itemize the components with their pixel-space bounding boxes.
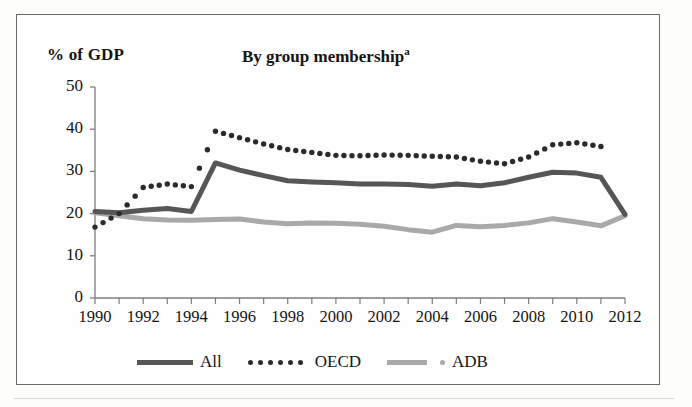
legend-label-adb: ADB [452,352,488,372]
plot-svg [95,87,625,298]
y-axis-tick-label: 0 [43,287,83,307]
series-line-adb [95,213,625,232]
x-axis-tick-label: 2012 [595,307,655,327]
chart-title: By group membershipa [242,45,410,67]
chart-title-text: By group membership [242,47,404,66]
legend-swatch-light-dot-icon [440,360,445,365]
y-axis-tick-label: 30 [43,160,83,180]
y-axis-unit-label: % of GDP [47,45,124,65]
plot-area: 01020304050 1990199219941996199820002002… [95,87,625,298]
series-line-all [95,163,625,214]
legend-swatch-dotted-line-icon [248,359,308,365]
x-axis-tick-marks [95,298,625,304]
y-axis-tick-label: 10 [43,245,83,265]
chart-title-footnote-marker: a [404,45,410,57]
legend-item-oecd[interactable]: OECD [248,352,361,372]
legend-label-all: All [200,352,222,372]
legend-label-oecd: OECD [315,352,361,372]
page-bottom-rule [14,398,674,399]
figure-page: % of GDP By group membershipa 0102030405… [0,0,692,407]
legend-item-all[interactable]: All [137,352,222,372]
chart-panel: % of GDP By group membershipa 0102030405… [16,14,660,385]
y-axis-tick-label: 20 [43,203,83,223]
legend-item-adb[interactable]: ADB [387,352,488,372]
legend-swatch-light-line-icon [387,360,427,365]
chart-legend: All OECD ADB [137,349,597,375]
y-axis-tick-label: 50 [43,76,83,96]
legend-swatch-solid-line-icon [137,360,193,365]
y-axis-tick-label: 40 [43,118,83,138]
y-axis-tick-marks [90,87,95,298]
